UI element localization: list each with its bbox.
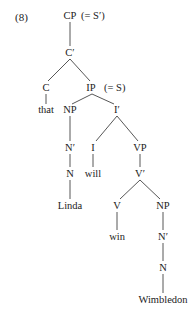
node-c-bar: C′ [65, 47, 74, 59]
leaf-will: will [85, 168, 101, 180]
leaf-linda: Linda [58, 200, 83, 212]
node-n-subject: N [66, 168, 74, 180]
node-i: I [91, 142, 95, 154]
node-np-object: NP [156, 200, 169, 212]
node-np-subject: NP [63, 104, 76, 116]
node-c: C [42, 82, 49, 94]
node-n-bar-object: N′ [158, 231, 168, 243]
node-cp-annotation: (= S′) [81, 10, 105, 22]
leaf-that: that [38, 104, 54, 116]
node-ip-annotation: (= S) [104, 82, 125, 94]
node-ip: IP [86, 82, 95, 94]
node-n-bar-subject: N′ [65, 142, 75, 154]
node-vp: VP [133, 142, 146, 154]
node-cp: CP [64, 10, 77, 22]
node-n-object: N [159, 262, 167, 274]
node-v: V [113, 200, 121, 212]
leaf-win: win [109, 231, 125, 243]
node-v-bar: V′ [135, 168, 145, 180]
node-i-bar: I′ [114, 104, 120, 116]
example-number: (8) [15, 11, 28, 23]
leaf-wimbledon: Wimbledon [138, 294, 187, 306]
